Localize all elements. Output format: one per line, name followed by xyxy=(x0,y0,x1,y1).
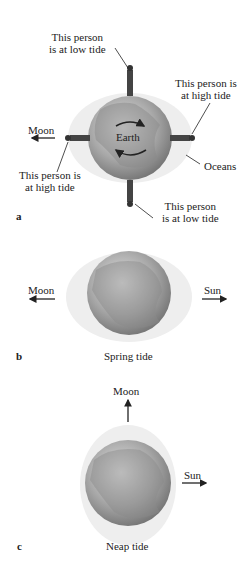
label-left-person: This person isat high tide xyxy=(19,169,81,193)
person-left-icon xyxy=(65,135,90,141)
caption-neap-tide: Neap tide xyxy=(106,540,148,552)
person-top-icon xyxy=(127,65,133,96)
label-moon-b: Moon xyxy=(28,284,54,296)
label-moon-c: Moon xyxy=(113,385,139,397)
label-earth: Earth xyxy=(116,131,140,143)
label-bottom-person: This personis at low tide xyxy=(162,200,219,224)
panel-letter-a: a xyxy=(16,210,22,222)
label-moon-a: Moon xyxy=(28,124,54,136)
panel-letter-b: b xyxy=(16,350,22,362)
panel-letter-c: c xyxy=(17,540,22,552)
label-right-person: This person isat high tide xyxy=(175,77,237,101)
label-sun-b: Sun xyxy=(204,284,221,296)
label-sun-c: Sun xyxy=(184,469,201,481)
caption-spring-tide: Spring tide xyxy=(104,350,153,362)
person-right-icon xyxy=(170,135,195,141)
person-bottom-icon xyxy=(127,180,133,207)
panel-c-earth xyxy=(80,425,176,545)
label-top-person: This personis at low tide xyxy=(49,31,106,55)
panel-b-earth xyxy=(66,251,192,342)
label-oceans: Oceans xyxy=(204,160,236,172)
